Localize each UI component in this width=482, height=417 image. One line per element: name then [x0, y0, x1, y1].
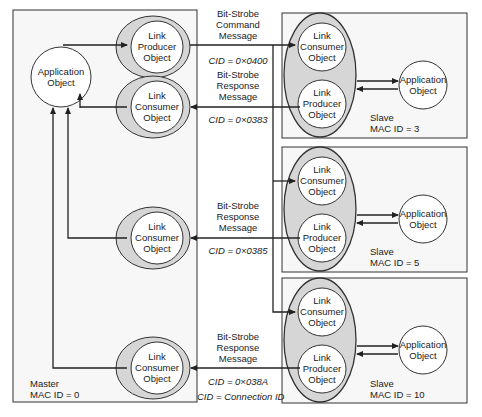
slave-3-producer-label: LinkProducerObject: [297, 87, 347, 120]
text: MAC ID = 3: [370, 123, 419, 134]
text: Consumer: [297, 306, 347, 317]
text: Consumer: [132, 101, 182, 112]
text: Slave: [370, 246, 419, 257]
text: Response: [205, 342, 271, 353]
message-1-label: Bit-StrobeCommandMessage: [205, 8, 271, 41]
text: Object: [132, 52, 182, 63]
text: Object: [396, 350, 450, 361]
text: Application: [396, 74, 450, 85]
text: Link: [297, 30, 347, 41]
text: Link: [132, 351, 182, 362]
text: Object: [297, 243, 347, 254]
text: Object: [297, 186, 347, 197]
text: Object: [297, 317, 347, 328]
master-consumer-1-label: LinkConsumerObject: [132, 90, 182, 123]
text: Link: [297, 221, 347, 232]
cid-legend: CID = Connection ID: [197, 391, 281, 402]
text: Consumer: [132, 362, 182, 373]
text: Object: [396, 85, 450, 96]
text: Consumer: [297, 175, 347, 186]
text: Link: [132, 90, 182, 101]
text: Object: [36, 77, 86, 88]
text: Consumer: [132, 232, 182, 243]
message-4-cid: CID = 0×038A: [205, 376, 271, 387]
message-3-label: Bit-StrobeResponseMessage: [205, 200, 271, 233]
master-app-label: ApplicationObject: [36, 66, 86, 88]
text: Consumer: [297, 41, 347, 52]
text: Message: [205, 222, 271, 233]
slave-5-app-label: ApplicationObject: [396, 208, 450, 230]
slave-5-id-label: SlaveMAC ID = 5: [370, 246, 419, 268]
text: Link: [297, 295, 347, 306]
message-3-cid: CID = 0×0385: [205, 245, 271, 256]
text: MAC ID = 5: [370, 257, 419, 268]
text: Object: [132, 373, 182, 384]
text: Producer: [297, 98, 347, 109]
text: Object: [132, 112, 182, 123]
message-1-cid: CID = 0×0400: [205, 55, 271, 66]
text: Object: [297, 52, 347, 63]
master-consumer-3-label: LinkConsumerObject: [132, 351, 182, 384]
text: Message: [205, 353, 271, 364]
slave-10-producer-label: LinkProducerObject: [297, 352, 347, 385]
slave-3-consumer-label: LinkConsumerObject: [297, 30, 347, 63]
text: Producer: [297, 363, 347, 374]
master-producer-label: LinkProducerObject: [132, 30, 182, 63]
text: Slave: [370, 112, 419, 123]
text: Bit-Strobe: [205, 69, 271, 80]
text: Message: [205, 91, 271, 102]
text: MAC ID = 0: [30, 389, 79, 400]
slave-5-producer-label: LinkProducerObject: [297, 221, 347, 254]
message-2-cid: CID = 0×0383: [205, 114, 271, 125]
text: Command: [205, 19, 271, 30]
text: Master: [30, 378, 79, 389]
text: Link: [132, 30, 182, 41]
text: Response: [205, 211, 271, 222]
text: Link: [297, 352, 347, 363]
text: Link: [297, 87, 347, 98]
slave-10-id-label: SlaveMAC ID = 10: [370, 378, 425, 400]
text: Application: [396, 339, 450, 350]
text: MAC ID = 10: [370, 389, 425, 400]
text: Object: [297, 374, 347, 385]
slave-10-app-label: ApplicationObject: [396, 339, 450, 361]
text: Bit-Strobe: [205, 200, 271, 211]
message-2-label: Bit-StrobeResponseMessage: [205, 69, 271, 102]
text: Bit-Strobe: [205, 8, 271, 19]
text: Message: [205, 30, 271, 41]
text: Link: [297, 164, 347, 175]
text: Application: [396, 208, 450, 219]
master-consumer-2-label: LinkConsumerObject: [132, 221, 182, 254]
text: Slave: [370, 378, 425, 389]
master-id-label: MasterMAC ID = 0: [30, 378, 79, 400]
message-4-label: Bit-StrobeResponseMessage: [205, 331, 271, 364]
slave-3-app-label: ApplicationObject: [396, 74, 450, 96]
text: Bit-Strobe: [205, 331, 271, 342]
text: Object: [132, 243, 182, 254]
slave-5-consumer-label: LinkConsumerObject: [297, 164, 347, 197]
text: Object: [396, 219, 450, 230]
text: Producer: [297, 232, 347, 243]
text: Application: [36, 66, 86, 77]
slave-10-consumer-label: LinkConsumerObject: [297, 295, 347, 328]
text: Object: [297, 109, 347, 120]
text: Response: [205, 80, 271, 91]
text: Producer: [132, 41, 182, 52]
slave-3-id-label: SlaveMAC ID = 3: [370, 112, 419, 134]
text: Link: [132, 221, 182, 232]
